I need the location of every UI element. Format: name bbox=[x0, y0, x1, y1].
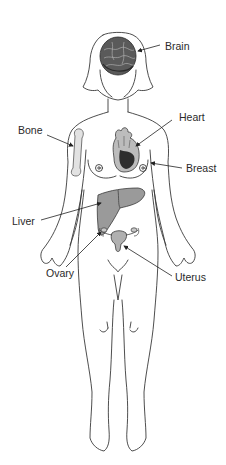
liver-label: Liver bbox=[12, 216, 35, 227]
heart-pointer bbox=[136, 120, 172, 146]
uterus-organ bbox=[99, 228, 139, 252]
uterus-pointer bbox=[124, 246, 172, 276]
body-figure bbox=[0, 0, 226, 465]
brain-pointer bbox=[138, 45, 160, 51]
heart-label: Heart bbox=[179, 112, 205, 123]
uterus-label: Uterus bbox=[175, 272, 206, 283]
breast-pointer bbox=[151, 163, 182, 168]
breast-label: Breast bbox=[186, 163, 216, 174]
bone-organ bbox=[71, 129, 83, 176]
brain-label: Brain bbox=[165, 41, 190, 52]
heart-organ bbox=[113, 128, 139, 172]
anatomy-diagram: Brain Heart Bone Breast Liver Ovary Uter… bbox=[0, 0, 226, 465]
bone-label: Bone bbox=[18, 125, 43, 136]
brain-organ bbox=[100, 37, 136, 75]
ovary-pointer bbox=[66, 232, 101, 267]
ovary-label: Ovary bbox=[46, 268, 74, 279]
liver-pointer bbox=[41, 203, 101, 220]
